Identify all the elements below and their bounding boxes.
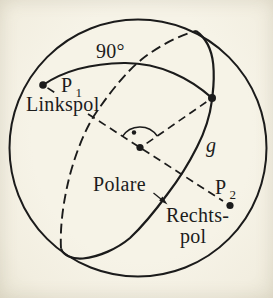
point-sphere-center [136,144,143,151]
radius-dashed-line [147,102,207,143]
sphere-pole-polar-diagram: 90° P 1 Linkspol Polare g P 2 Rechts- po… [0,0,273,298]
polare-label: Polare [93,173,146,195]
right-pole-label-line1: Rechts- [166,204,229,226]
point-on-great-circle [208,94,216,102]
right-angle-dot [132,130,136,134]
book-figure-page: 90° P 1 Linkspol Polare g P 2 Rechts- po… [0,0,273,298]
polare-pointer-line [154,193,162,200]
right-angle-arc [122,127,157,137]
great-circle-g-label: g [206,134,216,157]
point-p1-left-pole [39,81,47,89]
p2-label-base: P [215,176,226,198]
p2-label-subscript: 2 [230,187,237,202]
right-pole-label-line2: pol [180,225,207,248]
angle-90-label: 90° [96,40,125,62]
left-pole-label: Linkspol [26,93,100,116]
p2-label: P 2 [215,176,236,202]
